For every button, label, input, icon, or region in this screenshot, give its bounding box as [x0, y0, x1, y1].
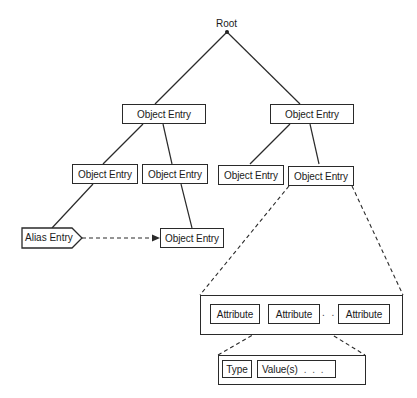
- object-entry-label: Object Entry: [285, 109, 339, 120]
- alias-entry[interactable]: Alias Entry: [25, 232, 73, 243]
- edge-l1right-c: [250, 124, 290, 164]
- attribute-label: Attribute: [217, 309, 253, 320]
- type-label: Type: [226, 364, 247, 375]
- object-entry-l2-c[interactable]: Object Entry: [218, 165, 284, 185]
- root-label: Root: [216, 18, 237, 29]
- object-entry-alias-target[interactable]: Object Entry: [160, 228, 224, 248]
- edge-l1left-a: [103, 124, 143, 164]
- object-entry-l1-right[interactable]: Object Entry: [270, 104, 354, 124]
- edge-a-alias: [52, 184, 93, 228]
- values-field[interactable]: Value(s) . . .: [257, 360, 336, 378]
- object-entry-l2-d[interactable]: Object Entry: [288, 166, 354, 186]
- object-entry-label: Object Entry: [224, 170, 278, 181]
- expand-d-right: [352, 186, 403, 295]
- object-entry-label: Object Entry: [78, 169, 132, 180]
- attribute-3[interactable]: Attribute: [338, 304, 390, 324]
- edge-l1right-d: [310, 124, 319, 164]
- diagram-connectors: [0, 0, 417, 398]
- object-entry-label: Object Entry: [137, 109, 191, 120]
- attribute-label: Attribute: [276, 309, 312, 320]
- attribute-label: Attribute: [346, 309, 382, 320]
- object-entry-label: Object Entry: [148, 169, 202, 180]
- edge-b-target: [181, 184, 192, 228]
- alias-entry-label: Alias Entry: [25, 232, 73, 243]
- edge-l1left-b: [163, 124, 172, 164]
- values-ellipsis: . . .: [304, 364, 325, 375]
- values-label: Value(s): [262, 364, 298, 375]
- type-field[interactable]: Type: [222, 360, 252, 378]
- edge-root-right: [227, 32, 300, 104]
- object-entry-l1-left[interactable]: Object Entry: [122, 104, 206, 124]
- attribute-2[interactable]: Attribute: [268, 304, 320, 324]
- object-entry-label: Object Entry: [165, 233, 219, 244]
- attribute-1[interactable]: Attribute: [210, 304, 260, 324]
- edge-root-left: [155, 32, 227, 104]
- object-entry-l2-b[interactable]: Object Entry: [142, 164, 208, 184]
- object-entry-l2-a[interactable]: Object Entry: [72, 164, 138, 184]
- object-entry-label: Object Entry: [294, 171, 348, 182]
